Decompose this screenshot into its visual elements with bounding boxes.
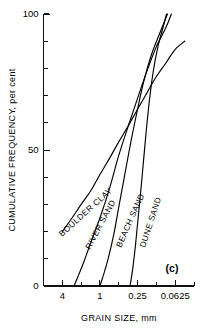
x-tick-label: 0.25 [128,290,147,301]
y-tick-label: 50 [28,144,39,155]
chart-figure: 050100 410.250.0625 BOULDER CLAYRIVER SA… [0,0,211,328]
curve-beach-sand [100,14,168,286]
y-tick-label: 100 [23,8,39,19]
cumulative-frequency-chart: 050100 410.250.0625 BOULDER CLAYRIVER SA… [0,0,211,328]
y-axis-title: CUMULATIVE FREQUENCY, per cent [7,68,17,231]
y-axis-ticks [44,14,50,286]
x-axis-tick-labels: 410.250.0625 [60,290,190,301]
x-tick-label: 0.0625 [161,290,190,301]
panel-label: (c) [166,262,179,274]
x-tick-label: 4 [60,290,65,301]
x-axis-ticks [62,280,194,286]
y-axis-tick-labels: 050100 [23,8,39,291]
x-tick-label: 1 [97,290,102,301]
curve-boulder-clay [62,41,184,231]
curve-labels: BOULDER CLAYRIVER SANDBEACH SANDDUNE SAN… [57,185,163,251]
y-tick-label: 0 [33,280,38,291]
curve-dune-sand [130,14,166,286]
x-axis-title: GRAIN SIZE, mm [81,313,157,323]
